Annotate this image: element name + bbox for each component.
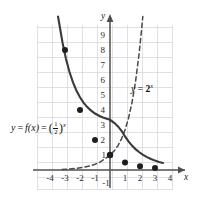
x-tick-2: 2 <box>138 173 143 183</box>
svg-text:y=2x: y=2x <box>130 82 153 94</box>
g-label-eq: = <box>138 84 143 94</box>
annotation-y-equals-2x: y=2x <box>130 82 153 94</box>
f-label-fx: f(x) <box>25 123 39 133</box>
annotation-y-equals-f-of-x: y = f(x) = ( 1 2 ) x <box>11 121 66 136</box>
y-tick-neg1: -1 <box>102 178 110 188</box>
f-label-eq1: = <box>17 123 23 133</box>
x-tick-1: 1 <box>123 173 128 183</box>
g-label-y: y <box>130 84 136 94</box>
y-tick-labels: 9 8 7 6 5 4 3 2 1 -1 <box>101 30 110 188</box>
f-label-y: y <box>11 123 15 133</box>
y-tick-9: 9 <box>101 30 106 40</box>
f-label-fraction: 1 2 <box>53 121 58 136</box>
data-point-0-1 <box>107 152 113 158</box>
x-axis-label: x <box>183 172 189 182</box>
y-tick-7: 7 <box>101 60 106 70</box>
x-tick-3: 3 <box>153 173 158 183</box>
y-tick-2: 2 <box>101 135 106 145</box>
grid-lines <box>38 25 173 190</box>
g-label-exponent: x <box>149 82 153 89</box>
data-point-neg2-4 <box>77 107 83 113</box>
y-axis-label: y <box>100 11 106 21</box>
x-tick-neg3: -3 <box>61 173 69 183</box>
y-tick-6: 6 <box>101 75 106 85</box>
data-point-3-eighth <box>152 165 158 171</box>
x-tick-neg4: -4 <box>46 173 54 183</box>
data-point-1-half <box>122 160 128 166</box>
f-label-numerator: 1 <box>53 121 58 128</box>
f-label-open-paren: ( <box>49 122 53 134</box>
data-point-2-quarter <box>137 163 143 169</box>
y-tick-3: 3 <box>101 120 106 130</box>
y-tick-4: 4 <box>101 105 106 115</box>
f-label-exponent: x <box>63 122 66 129</box>
x-tick-neg1: -1 <box>91 173 99 183</box>
f-label-denominator: 2 <box>53 129 58 136</box>
x-tick-4: 4 <box>168 173 173 183</box>
data-point-neg1-2 <box>92 137 98 143</box>
f-label-eq2: = <box>41 123 47 133</box>
y-axis-arrowhead <box>107 14 114 22</box>
y-tick-5: 5 <box>101 90 106 100</box>
plot-canvas: x y 9 8 7 6 5 4 3 2 1 -1 -4 -3 -2 -1 1 2… <box>0 0 199 202</box>
data-point-neg3-8 <box>62 47 68 53</box>
y-tick-8: 8 <box>101 45 106 55</box>
x-tick-neg2: -2 <box>76 173 84 183</box>
exponential-functions-figure: x y 9 8 7 6 5 4 3 2 1 -1 -4 -3 -2 -1 1 2… <box>0 0 199 202</box>
